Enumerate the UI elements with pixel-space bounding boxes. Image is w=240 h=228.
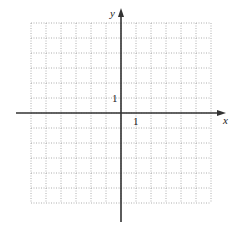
x-axis-label: x [222,114,228,126]
coordinate-plane: x y 1 1 [0,0,240,228]
y-axis [118,8,124,222]
y-unit-label: 1 [112,92,118,104]
x-unit-label: 1 [133,115,139,127]
y-axis-label: y [109,7,115,19]
y-axis-arrow-icon [118,8,124,17]
